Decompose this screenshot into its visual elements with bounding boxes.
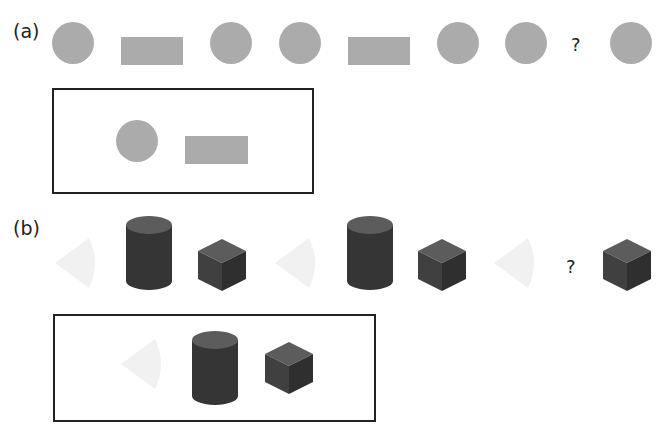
seq-a-question-mark: ?: [571, 34, 581, 55]
seq-b-question-mark: ?: [566, 256, 576, 277]
answer-b-cylinder: [192, 331, 240, 407]
seq-b-cube-1: [198, 239, 248, 293]
seq-b-cylinder-2: [347, 216, 395, 292]
seq-b-cone-2: [273, 237, 319, 289]
seq-a-circle-2: [210, 22, 252, 64]
seq-b-cube-2: [418, 239, 468, 293]
answer-a-circle: [116, 120, 158, 162]
answer-box-b: [53, 314, 376, 422]
answer-b-cube: [265, 342, 315, 396]
seq-a-circle-6: [610, 22, 652, 64]
seq-b-cylinder-1: [126, 216, 174, 292]
answer-a-rectangle: [185, 136, 248, 164]
seq-b-cube-3: [603, 239, 653, 293]
seq-a-rectangle-1: [121, 37, 183, 65]
seq-a-circle-1: [52, 22, 94, 64]
seq-a-circle-5: [505, 22, 547, 64]
seq-a-circle-3: [279, 22, 321, 64]
part-b-label: (b): [13, 217, 40, 239]
seq-a-circle-4: [437, 22, 479, 64]
answer-box-a: [52, 88, 314, 194]
part-a-label: (a): [13, 20, 39, 42]
seq-b-cone-3: [492, 237, 538, 289]
answer-b-cone: [119, 338, 165, 390]
seq-b-cone-1: [53, 237, 99, 289]
seq-a-rectangle-2: [348, 37, 410, 65]
